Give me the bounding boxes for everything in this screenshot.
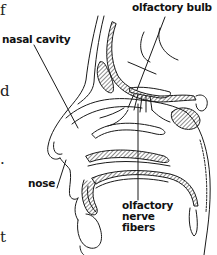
leader-nose <box>57 160 66 188</box>
label-line: fibers <box>122 222 173 233</box>
leader-nasal-cavity <box>34 45 78 128</box>
nasal-anatomy-diagram: f d . t <box>0 0 217 255</box>
label-olfactory-nerve-fibers: olfactory nerve fibers <box>122 200 173 233</box>
leader-olfactory-bulb <box>137 17 165 90</box>
label-nose: nose <box>28 178 55 189</box>
label-olfactory-bulb: olfactory bulb <box>132 2 212 13</box>
label-nasal-cavity: nasal cavity <box>2 34 70 45</box>
